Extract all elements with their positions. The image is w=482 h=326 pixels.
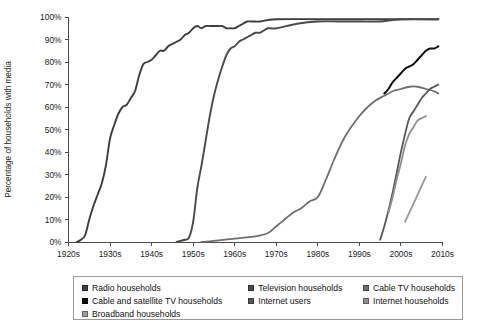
legend-row: Cable and satellite TV householdsInterne… bbox=[82, 294, 462, 307]
y-axis-tick-label: 20% bbox=[45, 192, 62, 202]
x-axis-tick-label: 1950s bbox=[182, 249, 205, 259]
series-line-cable-tv-households bbox=[201, 86, 438, 242]
y-axis-tick-label: 90% bbox=[45, 35, 62, 45]
legend-item-broadband-households[interactable]: Broadband households bbox=[82, 309, 250, 319]
legend-swatch-internet-households bbox=[363, 298, 369, 304]
series-line-television-households bbox=[177, 19, 439, 242]
legend-swatch-radio bbox=[82, 285, 88, 291]
y-axis-tick-label: 40% bbox=[45, 147, 62, 157]
legend-item-internet-households[interactable]: Internet households bbox=[363, 296, 462, 306]
legend-item-label: Broadband households bbox=[92, 309, 180, 319]
legend-swatch-broadband bbox=[82, 311, 88, 317]
x-axis-tick-label: 2000s bbox=[390, 249, 413, 259]
chart-container: 0%10%20%30%40%50%60%70%80%90%100%1920s19… bbox=[0, 0, 482, 326]
y-axis-tick-label: 70% bbox=[45, 80, 62, 90]
x-axis-tick-label: 1930s bbox=[99, 249, 122, 259]
y-axis-tick-label: 80% bbox=[45, 57, 62, 67]
chart-legend: Radio householdsTelevision householdsCab… bbox=[73, 276, 463, 320]
x-axis-tick-label: 1990s bbox=[348, 249, 371, 259]
x-axis-tick-label: 2010s bbox=[431, 249, 454, 259]
x-axis-tick-label: 1970s bbox=[265, 249, 288, 259]
y-axis-tick-label: 100% bbox=[40, 12, 62, 22]
legend-item-television-households[interactable]: Television households bbox=[248, 283, 363, 293]
y-axis-title: Percentage of households with media bbox=[4, 61, 13, 198]
legend-item-cable-tv-households[interactable]: Cable TV households bbox=[363, 283, 462, 293]
y-axis-tick-label: 10% bbox=[45, 215, 62, 225]
legend-swatch-cable-satellite bbox=[82, 298, 88, 304]
y-axis-tick-label: 50% bbox=[45, 125, 62, 135]
legend-item-label: Radio households bbox=[92, 283, 161, 293]
legend-item-label: Internet users bbox=[258, 296, 311, 306]
legend-swatch-internet-users bbox=[248, 298, 254, 304]
legend-item-label: Internet households bbox=[373, 296, 449, 306]
x-axis-tick-label: 1940s bbox=[140, 249, 163, 259]
series-line-internet-households bbox=[388, 116, 425, 213]
x-axis-tick-label: 1960s bbox=[223, 249, 246, 259]
legend-item-label: Television households bbox=[258, 283, 342, 293]
legend-grid: Radio householdsTelevision householdsCab… bbox=[74, 277, 462, 319]
series-line-broadband-households bbox=[405, 177, 426, 222]
y-axis-tick-label: 30% bbox=[45, 170, 62, 180]
x-axis-tick-label: 1920s bbox=[57, 249, 80, 259]
legend-item-radio-households[interactable]: Radio households bbox=[82, 283, 248, 293]
legend-item-label: Cable and satellite TV households bbox=[92, 296, 222, 306]
x-axis-tick-label: 1980s bbox=[306, 249, 329, 259]
legend-swatch-cable-tv bbox=[363, 285, 369, 291]
legend-item-internet-users[interactable]: Internet users bbox=[248, 296, 363, 306]
legend-row: Radio householdsTelevision householdsCab… bbox=[82, 281, 462, 294]
legend-item-cable-and-satellite-tv-households[interactable]: Cable and satellite TV households bbox=[82, 296, 248, 306]
legend-swatch-television bbox=[248, 285, 254, 291]
series-line-radio-households bbox=[77, 19, 439, 242]
y-axis-tick-label: 60% bbox=[45, 102, 62, 112]
y-axis-tick-label: 0% bbox=[49, 237, 62, 247]
legend-row: Broadband households bbox=[82, 307, 462, 320]
series-line-internet-users bbox=[380, 85, 438, 240]
legend-item-label: Cable TV households bbox=[373, 283, 455, 293]
